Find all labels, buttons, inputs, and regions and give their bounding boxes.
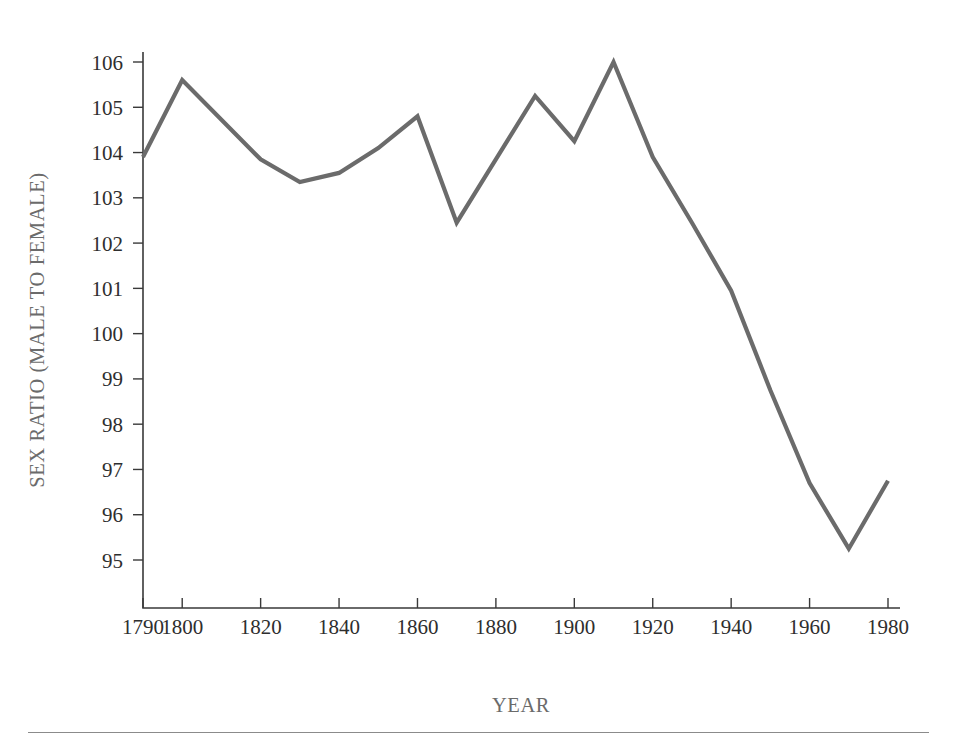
y-axis-tick-label: 96 xyxy=(102,503,123,527)
x-axis-tick-label: 1980 xyxy=(867,615,909,639)
x-axis-tick-label: 1800 xyxy=(161,615,203,639)
x-axis-tick-label: 1820 xyxy=(240,615,282,639)
x-axis-tick-label: 1900 xyxy=(553,615,595,639)
x-axis-title: YEAR xyxy=(492,694,550,716)
x-axis-tick-label: 1860 xyxy=(396,615,438,639)
figure-container: 9596979899100101102103104105106 17901800… xyxy=(0,0,959,751)
x-axis-tick-label: 1840 xyxy=(318,615,360,639)
footer-divider xyxy=(28,732,929,733)
y-axis-tick-label: 102 xyxy=(92,232,124,256)
y-axis-title: SEX RATIO (MALE TO FEMALE) xyxy=(26,172,49,488)
y-axis-tick-label: 101 xyxy=(92,277,124,301)
line-chart: 9596979899100101102103104105106 17901800… xyxy=(0,0,959,751)
x-axis-tick-label: 1940 xyxy=(710,615,752,639)
y-axis-ticks xyxy=(133,62,143,560)
y-axis-tick-label: 97 xyxy=(102,458,123,482)
y-axis-tick-labels: 9596979899100101102103104105106 xyxy=(92,51,124,573)
x-axis-tick-label: 1880 xyxy=(475,615,517,639)
x-axis-tick-labels: 1790180018201840186018801900192019401960… xyxy=(122,615,909,639)
chart-axes xyxy=(143,52,900,608)
y-axis-tick-label: 98 xyxy=(102,413,123,437)
y-axis-tick-label: 99 xyxy=(102,367,123,391)
x-axis-tick-label: 1960 xyxy=(789,615,831,639)
data-series-line xyxy=(143,62,888,549)
x-axis-tick-label: 1790 xyxy=(122,615,164,639)
y-axis-tick-label: 105 xyxy=(92,96,124,120)
y-axis-tick-label: 106 xyxy=(92,51,124,75)
y-axis-tick-label: 104 xyxy=(92,141,124,165)
y-axis-tick-label: 103 xyxy=(92,186,124,210)
y-axis-tick-label: 100 xyxy=(92,322,124,346)
x-axis-ticks xyxy=(143,598,888,608)
x-axis-tick-label: 1920 xyxy=(632,615,674,639)
y-axis-tick-label: 95 xyxy=(102,549,123,573)
